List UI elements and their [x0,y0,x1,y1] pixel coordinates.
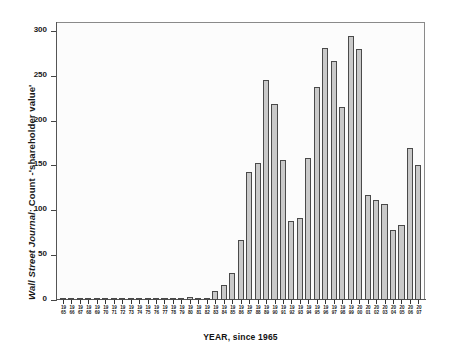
x-tick-mark [300,300,301,304]
x-tick-mark [317,300,318,304]
bar [255,163,261,300]
bar [238,240,244,300]
x-tick-mark [139,300,140,304]
bar [229,273,235,300]
x-tick-mark [173,300,174,304]
y-tick-label: 0 [43,294,47,303]
y-tick-label: 150 [34,159,47,168]
bar [297,218,303,301]
y-axis-title-rest: : Count -'shareholder value' [26,85,37,213]
bar [348,36,354,300]
x-tick-label: 2007 [413,305,424,315]
x-tick-mark [156,300,157,304]
bar [288,221,294,300]
x-tick-mark [148,300,149,304]
x-tick-mark [308,300,309,304]
bar [390,230,396,300]
bar [221,285,227,300]
x-tick-mark [97,300,98,304]
x-tick-mark [63,300,64,304]
x-tick-mark [164,300,165,304]
x-tick-mark [418,300,419,304]
bar [305,158,311,300]
y-tick-label: 50 [38,249,47,258]
bar [322,48,328,300]
x-tick-mark [105,300,106,304]
x-tick-label-year: 07 [413,310,424,315]
x-axis-title: YEAR, since 1965 [56,332,425,342]
y-tick-label: 300 [34,25,47,34]
bar [365,195,371,300]
x-tick-mark [334,300,335,304]
x-tick-mark [224,300,225,304]
x-tick-mark [241,300,242,304]
x-tick-mark [258,300,259,304]
x-tick-mark [368,300,369,304]
x-tick-mark [410,300,411,304]
x-tick-mark [359,300,360,304]
x-tick-mark [393,300,394,304]
x-tick-mark [114,300,115,304]
x-tick-mark [80,300,81,304]
bar [407,148,413,300]
x-tick-mark [291,300,292,304]
x-tick-mark [249,300,250,304]
y-axis-title-italic: Wall Street Journal [26,212,37,300]
x-tick-mark [88,300,89,304]
bar [398,225,404,300]
bar [415,165,421,300]
y-tick-label: 100 [34,204,47,213]
y-tick-label: 250 [34,70,47,79]
x-tick-mark [181,300,182,304]
x-tick-mark [207,300,208,304]
x-tick-mark [376,300,377,304]
bar [212,291,218,300]
x-tick-mark [71,300,72,304]
chart-figure: Wall Street Journal: Count -'shareholder… [0,0,450,355]
x-tick-mark [122,300,123,304]
bar [246,172,252,300]
x-tick-mark [275,300,276,304]
x-tick-mark [266,300,267,304]
x-tick-mark [385,300,386,304]
x-tick-mark [198,300,199,304]
y-tick-label: 200 [34,115,47,124]
x-tick-mark [232,300,233,304]
bar [373,200,379,300]
bar [331,61,337,300]
bar [339,107,345,300]
x-tick-mark [283,300,284,304]
x-tick-mark [131,300,132,304]
bar [263,80,269,300]
bar [271,104,277,300]
x-tick-mark [190,300,191,304]
bar-series [56,22,425,300]
bar [381,204,387,300]
x-tick-mark [401,300,402,304]
x-tick-mark [351,300,352,304]
bar [280,160,286,300]
bar [356,49,362,300]
x-axis-ticks: 1965196619671968196919701971197219731974… [56,300,425,330]
x-tick-mark [215,300,216,304]
x-tick-mark [325,300,326,304]
x-tick-mark [342,300,343,304]
bar [314,87,320,300]
